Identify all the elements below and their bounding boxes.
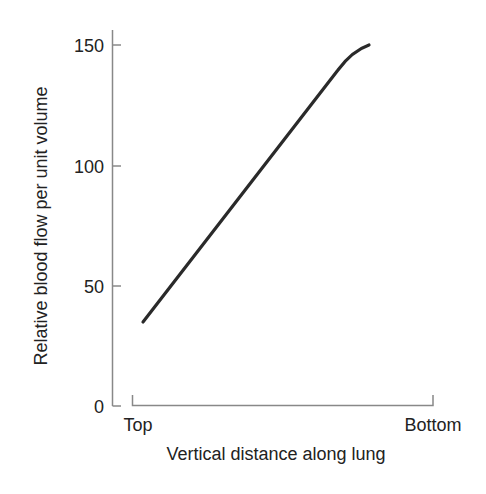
x-tick-label-top: Top — [123, 415, 152, 435]
x-tick-label-bottom: Bottom — [404, 415, 461, 435]
blood-flow-line — [143, 45, 369, 322]
x-axis: Top Bottom — [123, 395, 461, 435]
blood-flow-chart: 150 100 50 0 Top Bottom Vertical distanc… — [0, 0, 486, 494]
y-tick-label-150: 150 — [74, 36, 104, 56]
x-axis-title: Vertical distance along lung — [166, 444, 385, 464]
y-axis-title: Relative blood flow per unit volume — [31, 86, 51, 365]
y-tick-label-100: 100 — [74, 157, 104, 177]
y-tick-label-50: 50 — [84, 277, 104, 297]
y-axis: 150 100 50 0 — [74, 30, 121, 417]
y-tick-label-0: 0 — [94, 397, 104, 417]
